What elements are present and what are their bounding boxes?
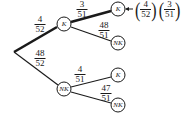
denominator: 51 [101,93,112,103]
result-factor: 3 51 [164,0,175,19]
node-label: K [116,6,121,13]
paren: ) [175,0,180,20]
denominator: 51 [164,9,175,19]
numerator: 48 [35,49,46,58]
numerator: 48 [99,21,110,30]
node-label: NK [113,40,122,47]
edge-probability: 3 51 [77,0,88,19]
node-label: NK [59,86,68,93]
denominator: 51 [77,9,88,19]
paren: ( [159,0,164,20]
denominator: 52 [35,58,46,68]
denominator: 52 [35,24,46,34]
denominator: 52 [140,9,151,19]
numerator: 47 [101,84,112,93]
paren: ( [135,0,140,20]
edge-probability: 4 52 [35,15,46,34]
arrowhead-icon [125,7,129,11]
result-expression: ( 4 52 ) ( 3 51 ) [135,0,180,19]
denominator: 51 [75,74,86,84]
node-label: NK [113,102,122,109]
paren: ) [151,0,156,20]
numerator: 4 [77,65,84,74]
edge-probability: 48 51 [99,21,110,40]
numerator: 4 [143,0,150,9]
edge-probability: 47 51 [101,84,112,103]
node-label: K [62,21,67,28]
numerator: 3 [79,0,86,9]
numerator: 3 [166,0,173,9]
edge-probability: 4 51 [75,65,86,84]
numerator: 4 [37,15,44,24]
edge-probability: 48 52 [35,49,46,68]
denominator: 51 [99,30,110,40]
node-label: K [116,72,121,79]
result-factor: 4 52 [140,0,151,19]
